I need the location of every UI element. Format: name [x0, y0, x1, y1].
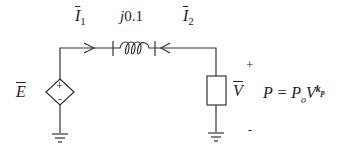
wire-right [155, 48, 216, 76]
ground-icon-left [52, 134, 68, 142]
load-minus: - [248, 124, 252, 136]
current-label-i1: I1 [75, 8, 86, 27]
load-equation: P = PoVkp [263, 84, 325, 105]
impedance-label: j0.1 [120, 9, 143, 24]
wire-left [60, 48, 113, 80]
impedance-value: 0.1 [124, 8, 143, 24]
source-label: E [16, 84, 26, 100]
ground-icon-right [208, 133, 224, 141]
load-box [207, 76, 226, 105]
source-plus: + [56, 80, 63, 92]
circuit-diagram [0, 0, 346, 152]
load-voltage-label: V [233, 83, 243, 99]
load-plus: + [246, 58, 253, 71]
current-label-i2: I2 [183, 8, 194, 27]
inductor-icon [113, 42, 155, 54]
source-minus: - [58, 93, 62, 104]
